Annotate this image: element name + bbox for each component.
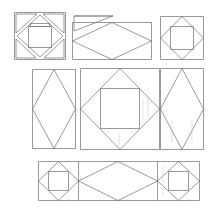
corner-triangle-bottom-left xyxy=(16,39,36,58)
tall-diamond-patch xyxy=(33,70,76,149)
center-square-patch xyxy=(169,172,189,191)
inner-diamond-patch xyxy=(161,17,204,60)
block-strip-square-right xyxy=(158,162,200,201)
block-wide-diamond-with-loose-triangle xyxy=(73,16,152,60)
block-outer-frame xyxy=(73,23,152,60)
center-square-patch xyxy=(29,27,52,48)
block-outer-frame xyxy=(161,69,204,150)
center-square-patch xyxy=(49,172,69,191)
block-exploded-square-in-square xyxy=(15,13,66,60)
block-tall-diamond-right xyxy=(161,69,204,150)
block-strip-diamond-center xyxy=(79,162,158,201)
center-diamond-patch xyxy=(79,162,158,201)
block-tall-diamond-left xyxy=(33,70,76,149)
block-outer-frame xyxy=(161,17,204,60)
center-square-patch xyxy=(171,27,194,50)
block-strip-square-left xyxy=(39,162,79,201)
loose-triangle-piece xyxy=(74,16,113,31)
center-square-patch xyxy=(101,89,140,129)
inner-diamond-patch xyxy=(17,15,63,57)
center-diamond-patch xyxy=(73,23,152,60)
block-big-square-in-square-center xyxy=(81,69,160,150)
bottom-strip-row xyxy=(39,162,200,201)
block-outer-frame xyxy=(15,13,66,60)
corner-triangle-bottom-right xyxy=(44,39,64,58)
loose-strip-piece xyxy=(31,24,50,27)
inner-diamond-patch xyxy=(158,162,200,201)
pattern-diagram-svg xyxy=(0,0,216,208)
strip-outer-frame xyxy=(39,162,200,201)
block-outer-frame xyxy=(33,70,76,149)
block-square-in-square-top-right xyxy=(161,17,204,60)
tall-diamond-patch xyxy=(161,69,204,150)
inner-diamond-patch xyxy=(39,162,79,201)
pattern-diagram-canvas xyxy=(0,0,216,208)
